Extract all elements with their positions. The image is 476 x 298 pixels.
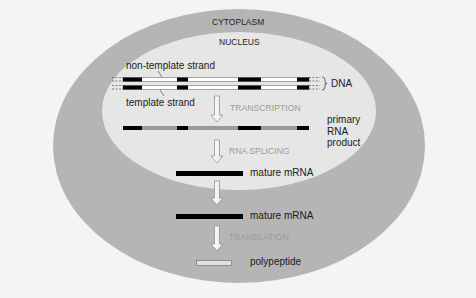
primary-rna-line-3: product bbox=[327, 137, 360, 149]
primary-rna-line-2: RNA bbox=[327, 126, 360, 138]
mature-mrna-nucleus-label: mature mRNA bbox=[250, 168, 313, 178]
polypeptide-shape bbox=[197, 261, 232, 266]
mature-mrna-cytoplasm-bar bbox=[176, 214, 243, 219]
primary-rna-product-label: primary RNA product bbox=[327, 114, 360, 149]
primary-rna-strand bbox=[123, 126, 309, 130]
template-strand-label: template strand bbox=[126, 98, 195, 108]
mature-mrna-cytoplasm-label: mature mRNA bbox=[250, 211, 313, 221]
cytoplasm-label: CYTOPLASM bbox=[212, 18, 264, 27]
translation-label: TRANSLATION bbox=[229, 233, 289, 242]
nucleus-label: NUCLEUS bbox=[219, 38, 260, 47]
rna-splicing-label: RNA SPLICING bbox=[229, 147, 290, 156]
mature-mrna-nucleus-bar bbox=[176, 171, 243, 176]
transcription-label: TRANSCRIPTION bbox=[230, 104, 301, 113]
dna-label: DNA bbox=[331, 79, 352, 89]
primary-rna-line-1: primary bbox=[327, 114, 360, 126]
polypeptide-label: polypeptide bbox=[250, 257, 301, 267]
non-template-strand-label: non-template strand bbox=[126, 61, 215, 71]
